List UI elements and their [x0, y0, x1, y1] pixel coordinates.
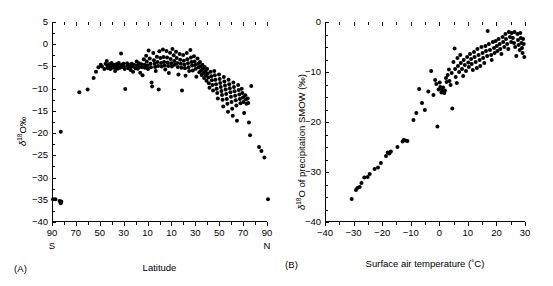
- data-point: [233, 89, 237, 93]
- data-point: [505, 42, 509, 46]
- tick-mark: [468, 222, 469, 226]
- panel-b: (B) −40−30−20−1001020300−10−20−30−40 Sur…: [280, 0, 553, 286]
- tick-mark: [207, 222, 208, 225]
- data-point: [168, 51, 172, 55]
- data-point: [469, 57, 473, 61]
- data-point: [102, 67, 106, 71]
- data-point: [144, 54, 148, 58]
- tick-mark: [325, 160, 328, 161]
- tick-mark: [439, 222, 440, 226]
- tick-mark: [207, 22, 208, 25]
- tick-label: 70: [238, 228, 249, 238]
- tick-mark: [112, 22, 113, 25]
- data-point: [467, 65, 471, 69]
- data-point: [497, 37, 501, 41]
- data-point: [482, 61, 486, 65]
- data-point: [487, 42, 491, 46]
- tick-label: −10: [32, 84, 48, 94]
- tick-mark: [325, 135, 328, 136]
- data-point: [229, 95, 233, 99]
- data-point: [179, 62, 183, 66]
- data-point: [451, 60, 455, 64]
- tick-mark: [339, 222, 340, 225]
- data-point: [166, 60, 170, 64]
- data-point: [169, 57, 173, 61]
- panel-b-plot-area: [325, 22, 525, 222]
- tick-mark: [148, 222, 149, 226]
- data-point: [455, 56, 459, 60]
- tick-label: −15: [32, 106, 48, 116]
- tick-label: −10: [403, 228, 419, 238]
- data-point: [231, 114, 235, 118]
- data-point: [228, 86, 232, 90]
- data-point: [185, 57, 189, 61]
- data-point: [196, 56, 200, 60]
- data-point: [163, 68, 167, 72]
- tick-label: 50: [214, 228, 225, 238]
- tick-label: 0: [316, 17, 321, 27]
- data-point: [475, 47, 479, 51]
- tick-mark: [325, 122, 329, 123]
- data-point: [86, 88, 90, 92]
- tick-mark: [88, 222, 89, 225]
- data-point: [154, 69, 158, 73]
- data-point: [193, 60, 197, 64]
- tick-label: −20: [374, 228, 390, 238]
- data-point: [151, 51, 155, 55]
- tick-mark: [52, 66, 56, 67]
- tick-mark: [325, 97, 328, 98]
- data-point: [223, 84, 227, 88]
- data-point: [176, 65, 180, 69]
- data-point: [230, 100, 234, 104]
- data-point: [163, 64, 167, 68]
- tick-mark: [496, 22, 497, 26]
- data-point: [181, 53, 185, 57]
- data-point: [459, 61, 463, 65]
- data-point: [123, 67, 127, 71]
- data-point: [185, 51, 189, 55]
- data-point: [362, 176, 366, 180]
- tick-label: 10: [166, 228, 177, 238]
- tick-mark: [255, 22, 256, 25]
- tick-label: −25: [32, 150, 48, 160]
- tick-label: −35: [32, 195, 48, 205]
- data-point: [462, 58, 466, 62]
- data-point: [194, 75, 198, 79]
- data-point: [262, 156, 266, 160]
- tick-mark: [219, 22, 220, 26]
- data-point: [152, 58, 156, 62]
- data-point: [219, 89, 223, 93]
- tick-mark: [482, 222, 483, 225]
- tick-mark: [52, 189, 55, 190]
- data-point: [431, 93, 435, 97]
- tick-label: −10: [305, 67, 321, 77]
- tick-mark: [368, 22, 369, 25]
- data-point: [488, 48, 492, 52]
- data-point: [460, 67, 464, 71]
- panel-a-x-axis-title: Latitude: [143, 262, 177, 273]
- data-point: [155, 55, 159, 59]
- data-point: [447, 68, 451, 72]
- data-point: [420, 101, 424, 105]
- data-point: [157, 88, 161, 92]
- tick-mark: [52, 111, 56, 112]
- data-point: [474, 60, 478, 64]
- data-point: [170, 47, 174, 51]
- data-point: [511, 36, 515, 40]
- tick-mark: [124, 22, 125, 26]
- panel-a-scatter: [53, 22, 268, 222]
- data-point: [59, 200, 63, 204]
- tick-label: 10: [142, 228, 153, 238]
- tick-mark: [160, 222, 161, 225]
- data-point: [178, 52, 182, 56]
- data-point: [455, 81, 459, 85]
- tick-mark: [52, 89, 56, 90]
- data-point: [389, 150, 393, 154]
- data-point: [167, 71, 171, 75]
- data-point: [215, 91, 219, 95]
- data-point: [438, 81, 442, 85]
- data-point: [182, 63, 186, 67]
- data-point: [236, 83, 240, 87]
- data-point: [376, 166, 380, 170]
- tick-mark: [511, 222, 512, 225]
